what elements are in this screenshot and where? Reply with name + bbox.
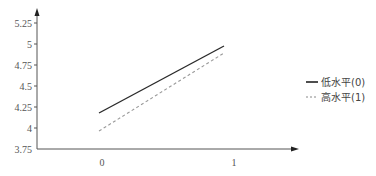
y-tick-label: 4.25 bbox=[15, 102, 33, 113]
y-tick-label: 4.75 bbox=[15, 60, 33, 71]
y-tick-label: 4 bbox=[27, 123, 32, 134]
y-tick-label: 5 bbox=[27, 39, 32, 50]
series-high-level-line bbox=[99, 53, 224, 131]
y-tick-label: 5.25 bbox=[15, 18, 33, 29]
x-tick-label: 1 bbox=[232, 157, 237, 168]
y-tick-label: 4.5 bbox=[20, 81, 33, 92]
x-axis-arrow-icon bbox=[291, 147, 299, 152]
line-chart: 5.25 5 4.75 4.5 4.25 4 3.75 0 1 低水平(0) 高… bbox=[0, 0, 376, 176]
legend-label-high: 高水平(1) bbox=[321, 91, 365, 103]
x-tick-label: 0 bbox=[100, 157, 105, 168]
series-low-level-line bbox=[99, 46, 224, 113]
legend: 低水平(0) 高水平(1) bbox=[306, 76, 365, 103]
y-tick-label: 3.75 bbox=[15, 144, 33, 155]
y-axis-arrow-icon bbox=[35, 8, 40, 16]
legend-label-low: 低水平(0) bbox=[321, 76, 365, 88]
y-tick-labels: 5.25 5 4.75 4.5 4.25 4 3.75 bbox=[15, 18, 33, 155]
